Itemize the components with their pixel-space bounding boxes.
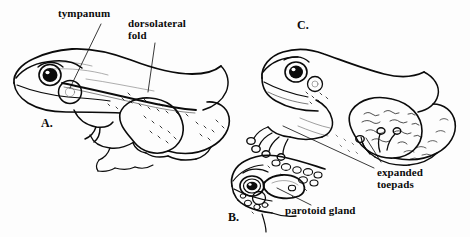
callout-parotoid-gland: parotoid gland: [285, 205, 356, 217]
callout-dorsolateral-fold-line2: fold: [128, 29, 147, 41]
tympanum-structure-c: [308, 77, 323, 92]
parotoid-gland-structure: [264, 175, 305, 199]
callout-expanded-toepads-line1: expanded: [377, 166, 423, 178]
frog-b-toad: [232, 155, 325, 232]
frog-anatomy-figure: tympanum dorsolateralfold expandedtoepad…: [0, 0, 470, 237]
callout-expanded-toepads-line2: toepads: [377, 178, 414, 190]
callout-dorsolateral-fold: dorsolateralfold: [128, 18, 186, 41]
frog-a-true-frog: [14, 49, 229, 172]
panel-letter-c: C.: [297, 19, 309, 31]
callout-expanded-toepads: expandedtoepads: [377, 167, 423, 190]
panel-letter-b: B.: [228, 211, 239, 223]
anatomy-line-art: [0, 0, 470, 237]
callout-tympanum: tympanum: [58, 8, 110, 20]
tympanum-leader: [70, 24, 101, 88]
panel-letter-a: A.: [41, 117, 53, 129]
frog-c-tree-frog: [247, 50, 456, 166]
callout-dorsolateral-fold-line1: dorsolateral: [128, 17, 186, 29]
